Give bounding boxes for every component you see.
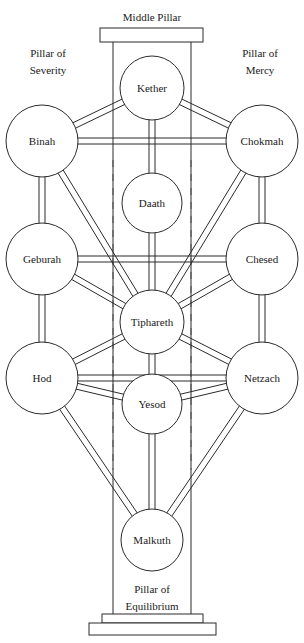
- path-chesed-netzach: [259, 294, 265, 344]
- sephira-label-yesod: Yesod: [138, 398, 166, 410]
- path-geburah-tiphareth: [70, 274, 127, 310]
- pedestal-lower-block: [89, 623, 216, 635]
- sephira-label-chesed: Chesed: [246, 253, 279, 265]
- path-edge: [73, 274, 127, 305]
- path-edge: [178, 339, 230, 366]
- sephira-hod[interactable]: Hod: [6, 342, 78, 414]
- path-hod-malkuth: [59, 405, 138, 517]
- path-netzach-malkuth: [166, 405, 245, 517]
- sephira-binah[interactable]: Binah: [6, 105, 78, 177]
- path-edge: [76, 383, 125, 395]
- path-edge: [181, 99, 232, 124]
- path-tiphareth-yesod: [149, 353, 155, 376]
- pillar-of-severity-label-line1: Pillar of: [30, 47, 66, 59]
- path-tiphareth-hod: [71, 333, 126, 365]
- path-edge: [74, 104, 125, 129]
- sephira-yesod[interactable]: Yesod: [122, 374, 182, 434]
- middle-pillar-capital: [100, 28, 203, 42]
- path-geburah-hod: [39, 294, 45, 344]
- path-binah-geburah: [39, 176, 45, 225]
- pillar-of-equilibrium-label-line1: Pillar of: [134, 583, 170, 595]
- path-edge: [64, 405, 138, 514]
- path-hod-yesod: [75, 383, 125, 400]
- path-edge: [72, 99, 123, 124]
- sephira-label-binah: Binah: [29, 135, 56, 147]
- sephira-chokmah[interactable]: Chokmah: [226, 105, 298, 177]
- path-edge: [179, 383, 228, 395]
- pillar-of-mercy-label-line2: Mercy: [246, 64, 275, 76]
- pillar-of-mercy-label-line1: Pillar of: [242, 47, 278, 59]
- path-tiphareth-netzach: [178, 333, 233, 365]
- path-yesod-malkuth: [149, 433, 155, 511]
- sephira-daath[interactable]: Daath: [122, 173, 182, 233]
- path-edge: [70, 279, 124, 310]
- sephira-label-chokmah: Chokmah: [241, 135, 284, 147]
- sephira-malkuth[interactable]: Malkuth: [121, 509, 183, 571]
- path-edge: [180, 279, 234, 310]
- middle-pillar-label: Middle Pillar: [123, 11, 182, 23]
- path-edge: [181, 333, 233, 360]
- pillar-of-equilibrium-label-line2: Equilibrium: [125, 600, 179, 612]
- sephira-tiphareth[interactable]: Tiphareth: [120, 290, 184, 354]
- sephira-label-malkuth: Malkuth: [133, 534, 171, 546]
- path-kether-daath: [149, 119, 155, 175]
- path-edge: [171, 408, 245, 517]
- sephira-label-netzach: Netzach: [244, 372, 281, 384]
- sephira-geburah[interactable]: Geburah: [6, 223, 78, 295]
- path-chesed-tiphareth: [177, 274, 234, 310]
- sephira-netzach[interactable]: Netzach: [226, 342, 298, 414]
- path-edge: [75, 389, 124, 401]
- sephira-kether[interactable]: Kether: [120, 56, 184, 120]
- path-kether-chokmah: [178, 99, 232, 129]
- path-geburah-chesed: [77, 256, 228, 262]
- path-binah-chokmah: [77, 138, 228, 144]
- sephira-label-daath: Daath: [139, 197, 166, 209]
- pillar-of-severity-label-line2: Severity: [30, 64, 67, 76]
- path-edge: [71, 333, 123, 360]
- path-edge: [74, 339, 126, 366]
- sephira-label-kether: Kether: [137, 82, 167, 94]
- path-edge: [59, 408, 133, 517]
- path-edge: [177, 274, 231, 305]
- sephiroth-layer: KetherBinahChokmahDaathGeburahChesedTiph…: [6, 56, 298, 571]
- path-chokmah-chesed: [259, 176, 265, 225]
- sephira-label-geburah: Geburah: [23, 253, 61, 265]
- sephira-chesed[interactable]: Chesed: [226, 223, 298, 295]
- path-kether-binah: [72, 99, 126, 129]
- path-netzach-yesod: [179, 383, 229, 400]
- tree-of-life-canvas: KetherBinahChokmahDaathGeburahChesedTiph…: [0, 0, 304, 643]
- pedestal-upper-block: [102, 614, 203, 623]
- sephira-label-tiphareth: Tiphareth: [131, 316, 174, 328]
- sephira-label-hod: Hod: [33, 372, 52, 384]
- path-edge: [178, 104, 229, 129]
- path-edge: [180, 389, 229, 401]
- path-edge: [166, 405, 240, 514]
- tree-of-life-diagram: KetherBinahChokmahDaathGeburahChesedTiph…: [0, 0, 304, 643]
